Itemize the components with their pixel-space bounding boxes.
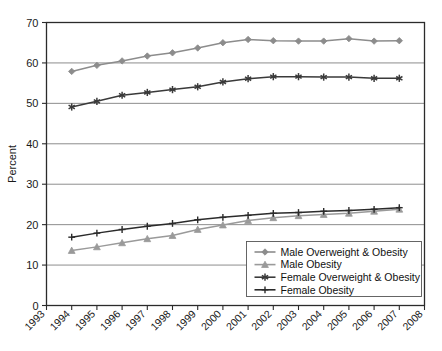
y-axis-tick-labels: 010203040506070 bbox=[26, 17, 38, 312]
y-tick-label-70: 70 bbox=[26, 17, 38, 29]
x-tick-label-2008: 2008 bbox=[400, 307, 425, 332]
marker-3-2 bbox=[119, 226, 126, 233]
legend-label-2: Female Overweight & Obesity bbox=[281, 271, 421, 283]
series-line-0 bbox=[72, 39, 400, 72]
y-tick-label-60: 60 bbox=[26, 57, 38, 69]
y-tick-label-30: 30 bbox=[26, 178, 38, 190]
x-tick-label-2005: 2005 bbox=[324, 307, 349, 332]
x-axis-tick-labels: 1993199419951996199719981999200020012002… bbox=[22, 307, 425, 332]
series-line-2 bbox=[72, 77, 400, 107]
marker-0-8 bbox=[270, 37, 276, 43]
marker-3-3 bbox=[144, 223, 151, 230]
x-tick-label-1995: 1995 bbox=[72, 307, 97, 332]
marker-3-1 bbox=[94, 230, 101, 237]
y-tick-label-50: 50 bbox=[26, 97, 38, 109]
marker-0-9 bbox=[295, 38, 301, 44]
x-tick-label-1999: 1999 bbox=[173, 307, 198, 332]
marker-0-4 bbox=[169, 50, 175, 56]
x-tick-label-1993: 1993 bbox=[22, 307, 47, 332]
x-tick-label-2004: 2004 bbox=[299, 307, 324, 332]
marker-0-13 bbox=[396, 37, 402, 43]
marker-0-6 bbox=[220, 40, 226, 46]
x-tick-label-2001: 2001 bbox=[224, 307, 249, 332]
marker-0-5 bbox=[195, 45, 201, 51]
legend-label-1: Male Obesity bbox=[281, 258, 343, 270]
y-tick-label-20: 20 bbox=[26, 219, 38, 231]
x-tick-label-1997: 1997 bbox=[123, 307, 148, 332]
marker-0-3 bbox=[144, 53, 150, 59]
line-chart: 010203040506070 199319941995199619971998… bbox=[0, 0, 442, 351]
marker-0-11 bbox=[346, 35, 352, 41]
chart-container: 010203040506070 199319941995199619971998… bbox=[0, 0, 442, 351]
marker-0-7 bbox=[245, 36, 251, 42]
gridlines bbox=[47, 63, 425, 265]
x-tick-label-1998: 1998 bbox=[148, 307, 173, 332]
x-tick-label-1996: 1996 bbox=[98, 307, 123, 332]
y-axis-label: Percent bbox=[6, 145, 18, 183]
y-axis-ticks bbox=[42, 23, 47, 306]
marker-0-10 bbox=[321, 38, 327, 44]
y-tick-label-40: 40 bbox=[26, 138, 38, 150]
x-tick-label-2007: 2007 bbox=[375, 307, 400, 332]
marker-0-12 bbox=[371, 38, 377, 44]
series-0 bbox=[69, 35, 403, 74]
series-2 bbox=[69, 73, 403, 111]
marker-3-0 bbox=[68, 234, 75, 241]
y-tick-label-10: 10 bbox=[26, 259, 38, 271]
marker-0-0 bbox=[69, 68, 75, 74]
marker-3-4 bbox=[169, 220, 176, 227]
marker-3-6 bbox=[220, 214, 227, 221]
chart-legend: Male Overweight & ObesityMale ObesityFem… bbox=[247, 242, 422, 297]
x-tick-label-2002: 2002 bbox=[249, 307, 274, 332]
marker-3-8 bbox=[270, 210, 277, 217]
x-tick-label-2000: 2000 bbox=[198, 307, 223, 332]
data-series-group bbox=[68, 35, 402, 253]
legend-label-0: Male Overweight & Obesity bbox=[281, 246, 409, 258]
x-tick-label-1994: 1994 bbox=[47, 307, 72, 332]
x-tick-label-2006: 2006 bbox=[350, 307, 375, 332]
legend-label-3: Female Obesity bbox=[281, 284, 355, 296]
x-tick-label-2003: 2003 bbox=[274, 307, 299, 332]
marker-3-7 bbox=[245, 212, 252, 219]
marker-3-5 bbox=[194, 216, 201, 223]
